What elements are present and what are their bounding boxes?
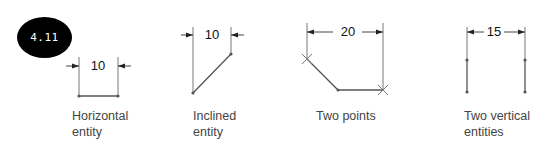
arrowhead-icon	[72, 64, 79, 69]
endpoint-dot	[465, 90, 468, 93]
caption-inclined-entity: Inclined entity	[193, 108, 236, 140]
dimension-value-horizontal: 10	[88, 59, 108, 73]
endpoint-dot	[465, 58, 468, 61]
dimension-value-two-points: 20	[335, 25, 361, 39]
endpoint-dot	[523, 90, 526, 93]
endpoint-dot	[191, 91, 194, 94]
vertex-dot	[337, 89, 340, 92]
arrowhead-icon	[307, 30, 314, 35]
dimension-examples-figure: 4.11	[0, 0, 544, 152]
arrowhead-icon	[518, 30, 525, 35]
arrowhead-icon	[186, 33, 193, 38]
endpoint-dot	[523, 58, 526, 61]
dimension-value-two-vertical: 15	[485, 25, 503, 39]
polyline-entity	[307, 59, 383, 90]
caption-two-points: Two points	[316, 108, 376, 124]
caption-horizontal-entity: Horizontal entity	[72, 108, 128, 140]
arrowhead-icon	[376, 30, 383, 35]
arrowhead-icon	[467, 30, 474, 35]
endpoint-dot	[229, 52, 232, 55]
endpoint-dot	[77, 94, 80, 97]
arrowhead-icon	[118, 64, 125, 69]
inclined-entity-line	[193, 54, 231, 93]
endpoint-dot	[116, 94, 119, 97]
arrowhead-icon	[231, 33, 238, 38]
dimension-value-inclined: 10	[202, 28, 222, 42]
caption-two-vertical-entities: Two vertical entities	[464, 108, 530, 140]
